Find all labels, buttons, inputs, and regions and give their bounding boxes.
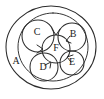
set-label-F: F xyxy=(53,42,59,53)
diagram-canvas: A C B D E F xyxy=(0,0,104,99)
set-diagram: A C B D E F xyxy=(0,0,104,99)
set-label-E: E xyxy=(69,56,75,67)
set-circle-A xyxy=(6,6,96,89)
set-label-B: B xyxy=(70,28,77,39)
set-label-A: A xyxy=(12,55,20,66)
set-label-C: C xyxy=(34,26,41,37)
set-label-D: D xyxy=(39,61,46,72)
